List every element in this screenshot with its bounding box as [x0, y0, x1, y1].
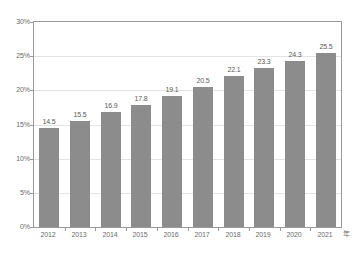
bar[interactable] — [70, 121, 90, 227]
x-axis-tick-label: 2021 — [310, 230, 340, 239]
x-axis-tick-mark — [126, 228, 127, 231]
x-axis-tick-mark — [310, 228, 311, 231]
plot-area: 14.515.516.917.819.120.522.123.324.325.5 — [33, 21, 342, 228]
x-axis-tick-label: 2018 — [218, 230, 248, 239]
x-axis-tick-mark — [249, 228, 250, 231]
y-axis: 0%5%10%15%20%25%30% — [0, 0, 30, 260]
x-axis-tick-mark — [65, 228, 66, 231]
x-axis-tick-mark — [95, 228, 96, 231]
x-axis-tick-mark — [188, 228, 189, 231]
y-axis-tick-label: 20% — [0, 86, 30, 94]
x-axis-tick-label: 2015 — [125, 230, 155, 239]
bar[interactable] — [162, 96, 182, 227]
bar[interactable] — [193, 87, 213, 227]
y-axis-tick-label: 30% — [0, 18, 30, 26]
x-axis-tick-mark — [157, 228, 158, 231]
x-axis: 2012201320142015201620172018201920202021 — [33, 230, 342, 246]
bar-value-label: 19.1 — [157, 86, 187, 94]
x-axis-tick-label: 2017 — [187, 230, 217, 239]
x-axis-unit-label: 年 — [343, 229, 350, 238]
bar[interactable] — [101, 112, 121, 227]
bar-value-label: 24.3 — [280, 51, 310, 59]
bar-value-label: 25.5 — [311, 43, 341, 51]
x-axis-tick-label: 2014 — [95, 230, 125, 239]
bar[interactable] — [254, 68, 274, 227]
x-axis-tick-label: 2012 — [33, 230, 63, 239]
bar[interactable] — [285, 61, 305, 227]
x-axis-tick-mark — [218, 228, 219, 231]
y-axis-tick-label: 0% — [0, 223, 30, 231]
x-axis-tick-label: 2013 — [64, 230, 94, 239]
y-axis-tick-label: 5% — [0, 189, 30, 197]
x-axis-tick-label: 2016 — [156, 230, 186, 239]
bar-value-label: 16.9 — [96, 102, 126, 110]
bar-chart: 0%5%10%15%20%25%30% 14.515.516.917.819.1… — [0, 0, 361, 260]
bar-value-label: 15.5 — [65, 111, 95, 119]
bar-value-label: 17.8 — [126, 95, 156, 103]
bar-value-label: 22.1 — [219, 66, 249, 74]
bar-value-label: 14.5 — [34, 118, 64, 126]
y-axis-tick-label: 25% — [0, 52, 30, 60]
bar[interactable] — [224, 76, 244, 227]
x-axis-tick-mark — [280, 228, 281, 231]
bar[interactable] — [131, 105, 151, 227]
y-axis-tick-label: 15% — [0, 121, 30, 129]
bar-value-label: 20.5 — [188, 77, 218, 85]
x-axis-tick-label: 2020 — [279, 230, 309, 239]
bar[interactable] — [39, 128, 59, 227]
x-axis-tick-label: 2019 — [248, 230, 278, 239]
bar[interactable] — [316, 53, 336, 227]
bar-value-label: 23.3 — [249, 58, 279, 66]
y-axis-tick-label: 10% — [0, 155, 30, 163]
